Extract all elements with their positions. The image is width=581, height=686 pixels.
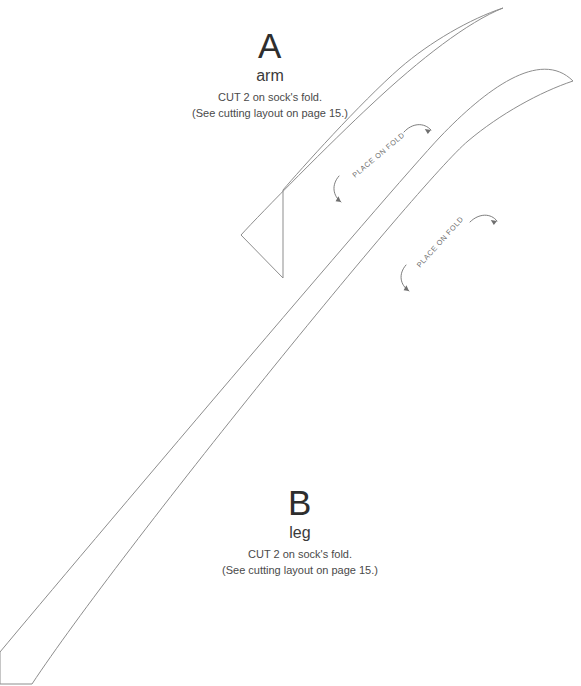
- piece-b-label-block: B leg CUT 2 on sock's fold. (See cutting…: [180, 485, 420, 579]
- fold-marking-b-label: PLACE ON FOLD: [415, 215, 466, 270]
- piece-a-cut-instruction: CUT 2 on sock's fold.: [150, 90, 390, 106]
- fold-arrow-a-upper-head: [425, 129, 431, 134]
- piece-a-name: arm: [150, 67, 390, 85]
- piece-b-reference-note: (See cutting layout on page 15.): [180, 563, 420, 579]
- fold-arrow-b-upper-head: [491, 220, 497, 225]
- piece-b-outline: [0, 69, 573, 684]
- piece-a-label-block: A arm CUT 2 on sock's fold. (See cutting…: [150, 28, 390, 122]
- pattern-sheet: PLACE ON FOLD PLACE ON FOLD A arm CUT 2 …: [0, 0, 581, 686]
- piece-b-letter: B: [180, 485, 420, 520]
- piece-b-cut-instruction: CUT 2 on sock's fold.: [180, 547, 420, 563]
- fold-marking-a-label: PLACE ON FOLD: [351, 131, 407, 180]
- piece-a-letter: A: [150, 28, 390, 63]
- fold-marking-b: PLACE ON FOLD: [401, 215, 497, 291]
- fold-arrow-b-lower: [401, 265, 409, 291]
- piece-a-reference-note: (See cutting layout on page 15.): [150, 106, 390, 122]
- piece-b-name: leg: [180, 524, 420, 542]
